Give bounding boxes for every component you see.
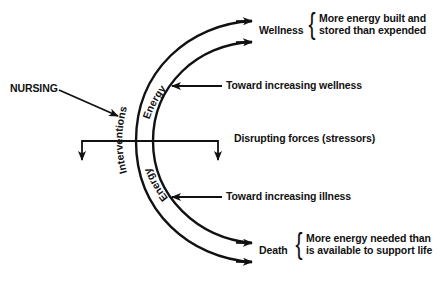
energy-upper-label: Energy bbox=[140, 82, 168, 120]
nursing-label: NURSING bbox=[10, 82, 58, 94]
nursing-arrow bbox=[59, 90, 118, 116]
wellness-brace: { bbox=[309, 9, 316, 39]
toward-wellness-label: Toward increasing wellness bbox=[226, 79, 362, 91]
energy-lower-label: Energy bbox=[141, 166, 170, 204]
death-label: Death bbox=[259, 244, 288, 256]
toward-illness-label: Toward increasing illness bbox=[226, 190, 351, 202]
disrupting-forces-label: Disrupting forces (stressors) bbox=[234, 132, 375, 144]
wellness-label: Wellness bbox=[259, 24, 304, 36]
wellness-description: More energy built and stored than expend… bbox=[319, 12, 426, 36]
disrupting-forces-bar bbox=[82, 140, 218, 160]
death-description: More energy needed than is available to … bbox=[306, 232, 432, 256]
interventions-label: Interventions bbox=[112, 105, 129, 176]
death-brace: { bbox=[296, 229, 303, 259]
